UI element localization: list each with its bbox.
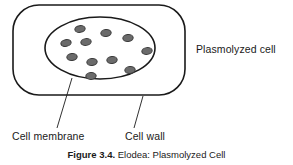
label-cell-wall: Cell wall (125, 130, 165, 142)
chloroplast (101, 29, 112, 37)
cell-membrane-outline (45, 17, 155, 79)
figure-caption: Figure 3.4. Elodea: Plasmolyzed Cell (0, 149, 293, 160)
chloroplast (87, 58, 98, 66)
label-cell-membrane: Cell membrane (12, 130, 85, 142)
figure-plasmolyzed-cell: Plasmolyzed cell Cell membrane Cell wall… (0, 0, 293, 165)
cell-wall-leader (134, 96, 143, 128)
caption-number: Figure 3.4. (68, 149, 116, 160)
chloroplast (125, 66, 136, 74)
label-plasmolyzed-cell: Plasmolyzed cell (196, 43, 276, 55)
caption-title: Elodea: Plasmolyzed Cell (118, 149, 226, 160)
chloroplast (86, 72, 97, 80)
